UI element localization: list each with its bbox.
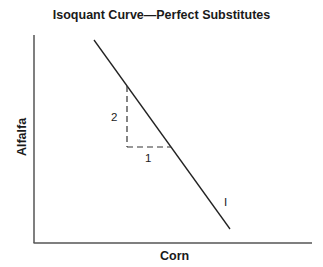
rise-label: 2 — [111, 111, 117, 123]
chart-plot: 2 1 I — [0, 0, 323, 267]
isoquant-line — [94, 40, 230, 229]
run-label: 1 — [145, 152, 151, 164]
curve-label: I — [224, 196, 227, 208]
